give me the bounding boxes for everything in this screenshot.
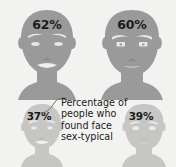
percent-label-small-male: 39%: [124, 110, 158, 122]
caption-line-3: found face: [61, 120, 129, 131]
caption-line-1: Percentage of: [61, 97, 129, 108]
percent-label-large-female: 62%: [28, 17, 66, 32]
sex-typical-face-infographic: 62% 60%: [0, 0, 176, 167]
caption-line-2: people who: [61, 108, 129, 119]
caption-line-4: sex-typical: [61, 131, 129, 142]
percent-label-large-male: 60%: [113, 17, 151, 32]
caption: Percentage of people who found face sex-…: [61, 97, 129, 143]
